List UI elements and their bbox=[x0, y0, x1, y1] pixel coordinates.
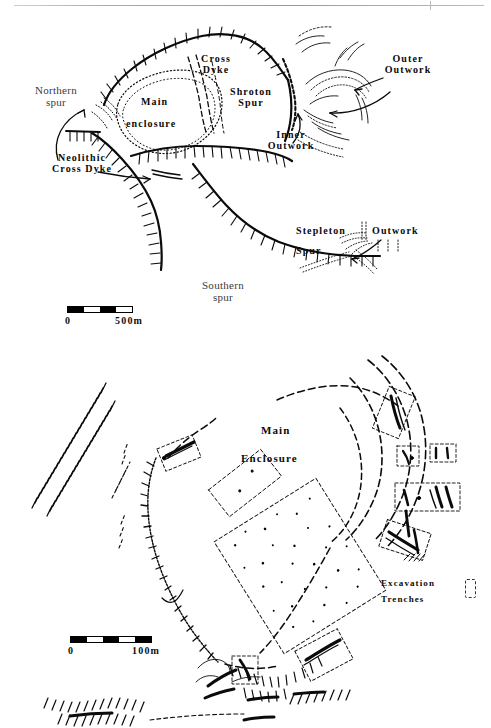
trench-feature bbox=[240, 660, 250, 679]
south-dashed-rampart bbox=[225, 664, 278, 668]
lower-enclosure-map bbox=[0, 348, 491, 728]
excavation-trench-legend-symbol bbox=[465, 579, 476, 598]
label-excavation-trenches-2: Trenches bbox=[381, 594, 424, 604]
scalebar-seg bbox=[87, 637, 103, 642]
scalebar-seg bbox=[68, 307, 84, 312]
label-main-enclosure-upper-2: enclosure bbox=[126, 118, 176, 129]
southern-long-rampart-hachures bbox=[192, 173, 373, 266]
label-main-enclosure-lower: Main bbox=[261, 424, 290, 436]
scalebar-seg bbox=[84, 307, 100, 312]
trench-feature bbox=[446, 487, 452, 507]
left-hachure-band-outer bbox=[32, 383, 106, 508]
scalebar-upper-zero: 0 bbox=[65, 315, 71, 326]
trench-feature bbox=[403, 451, 409, 464]
scalebar-lower-max: 100m bbox=[132, 645, 160, 656]
southern-hachure-band-left bbox=[44, 698, 144, 712]
label-excavation-trenches: Excavation bbox=[381, 578, 435, 588]
scalebar-lower-zero: 0 bbox=[68, 645, 74, 656]
label-main-enclosure-upper: Main bbox=[141, 96, 168, 107]
label-cross-dyke: CrossDyke bbox=[186, 53, 246, 75]
scalebar-lower-bar bbox=[70, 636, 152, 643]
trench-group-e2 bbox=[430, 444, 456, 462]
north-dashed-rampart-2 bbox=[277, 386, 398, 406]
trench-feature bbox=[406, 511, 409, 536]
excavation-trench bbox=[214, 478, 386, 654]
label-stepleton-outwork: Outwork bbox=[372, 225, 419, 236]
trench-feature bbox=[430, 490, 436, 508]
western-rampart-main bbox=[148, 458, 218, 662]
trench-group-e1 bbox=[397, 446, 419, 466]
trench-posthole bbox=[162, 456, 165, 459]
scalebar-seg bbox=[119, 637, 135, 642]
trench-posthole bbox=[238, 490, 241, 493]
central-excavation-main bbox=[214, 478, 386, 654]
trench-group-se2 bbox=[404, 530, 425, 561]
label-stepleton-spur-2: Spur bbox=[296, 245, 322, 256]
scalebar-upper: 0 500m bbox=[67, 306, 133, 327]
western-rampart-hachures bbox=[141, 462, 213, 659]
label-southern-spur: Southernspur bbox=[182, 279, 264, 304]
scalebar-seg bbox=[103, 637, 119, 642]
trench-posthole bbox=[251, 470, 254, 473]
scalebar-seg bbox=[116, 307, 132, 312]
main-enclosure-dotted-circuit-2 bbox=[123, 78, 215, 150]
scalebar-upper-ticks: 0 500m bbox=[67, 313, 133, 327]
trench-group-e3 bbox=[395, 483, 460, 511]
scalebar-upper-max: 500m bbox=[115, 315, 143, 326]
label-shroton-spur: ShrotonSpur bbox=[214, 86, 288, 108]
label-stepleton-spur: Stepleton bbox=[296, 225, 346, 236]
label-neolithic-cross-dyke: NeolithicCross Dyke bbox=[20, 152, 144, 174]
trench-feature bbox=[404, 490, 408, 505]
scalebar-lower-ticks: 0 100m bbox=[70, 643, 152, 657]
label-outer-outwork: OuterOutwork bbox=[364, 53, 452, 75]
label-northern-spur: Northernspur bbox=[18, 84, 94, 109]
trench-posthole bbox=[417, 496, 420, 499]
main-enclosure-dotted-circuit bbox=[117, 70, 222, 153]
trench-posthole bbox=[411, 457, 414, 460]
neolithic-bank-detail bbox=[152, 170, 182, 179]
scalebar-lower: 0 100m bbox=[70, 636, 152, 657]
scalebar-seg bbox=[135, 637, 151, 642]
southeast-dashed-rampart bbox=[260, 548, 330, 653]
label-inner-outwork: InnerOutwork bbox=[249, 129, 333, 151]
label-main-enclosure-lower-2: Enclosure bbox=[241, 452, 298, 464]
trench-postholes bbox=[227, 489, 373, 640]
western-rampart-kink bbox=[162, 590, 183, 602]
excavation-trench bbox=[430, 444, 456, 462]
trench-feature bbox=[447, 448, 448, 458]
left-hachure-band-inner bbox=[47, 401, 115, 516]
southern-hachure-arc-1 bbox=[230, 657, 322, 687]
east-rampart-middle bbox=[368, 360, 411, 541]
trench-feature bbox=[166, 442, 194, 456]
scalebar-seg bbox=[71, 637, 87, 642]
bottom-boundary-dashed bbox=[150, 714, 244, 720]
trench-group-nw bbox=[157, 435, 201, 471]
scalebar-upper-bar bbox=[67, 306, 133, 313]
trench-feature bbox=[304, 645, 338, 665]
trench-feature bbox=[436, 487, 442, 507]
western-entrance-rampart bbox=[66, 131, 100, 132]
trench-group-e4 bbox=[406, 511, 409, 536]
scalebar-seg bbox=[100, 307, 116, 312]
left-hachure-band-fragment bbox=[112, 442, 130, 548]
southern-long-rampart bbox=[193, 164, 380, 256]
east-rampart-innermost bbox=[330, 408, 362, 543]
